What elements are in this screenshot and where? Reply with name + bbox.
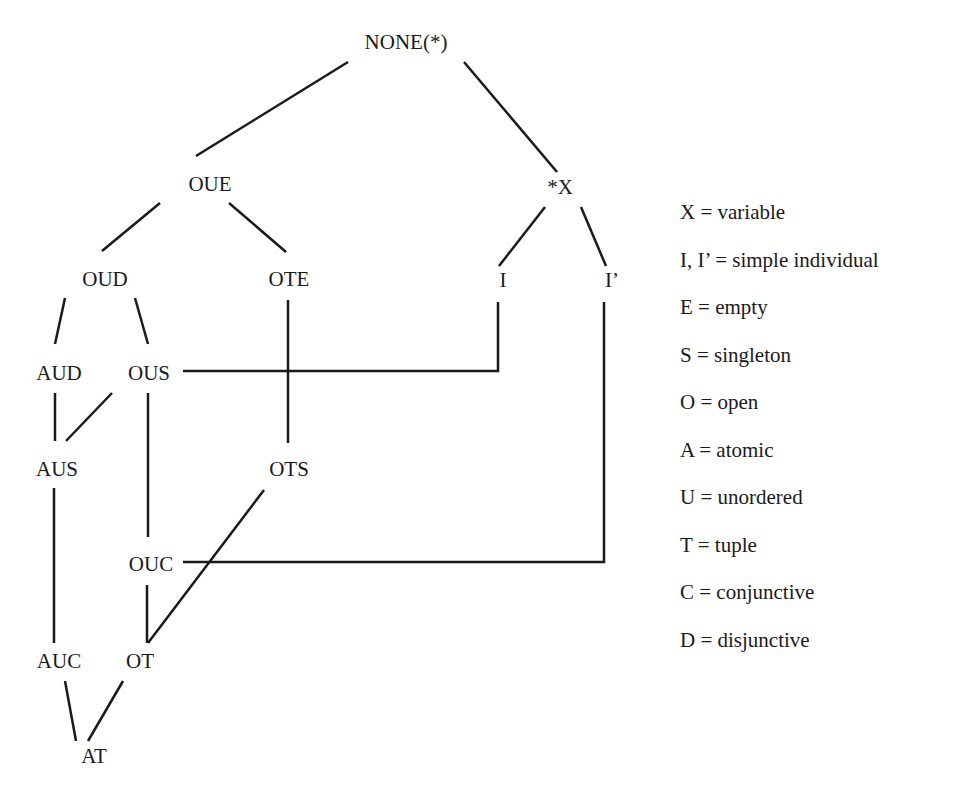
edge-x-iprime — [581, 207, 606, 266]
edge-i-ous — [183, 302, 498, 371]
node-x: *X — [547, 175, 573, 199]
edge-none-oue — [196, 62, 348, 156]
legend-item-disjunctive: D = disjunctive — [680, 628, 879, 652]
edge-x-i — [499, 207, 545, 266]
edge-iprime-ouc — [183, 302, 604, 562]
legend-item-conjunctive: C = conjunctive — [680, 580, 879, 604]
legend-item-empty: E = empty — [680, 295, 879, 319]
node-auc: AUC — [37, 649, 81, 673]
legend-item-variable: X = variable — [680, 200, 879, 224]
node-oud: OUD — [82, 267, 128, 291]
edge-auc-at — [65, 681, 76, 741]
legend-item-open: O = open — [680, 390, 879, 414]
node-aud: AUD — [36, 361, 82, 385]
legend-item-unordered: U = unordered — [680, 485, 879, 509]
legend-item-tuple: T = tuple — [680, 533, 879, 557]
node-ots: OTS — [269, 457, 309, 481]
legend-item-simple-individual: I, I’ = simple individual — [680, 248, 879, 272]
node-ouc: OUC — [129, 552, 173, 576]
edge-oue-ote — [229, 203, 286, 252]
node-none: NONE(*) — [365, 30, 448, 54]
legend: X = variable I, I’ = simple individual E… — [680, 200, 879, 675]
node-i: I — [500, 268, 507, 292]
node-ote: OTE — [269, 267, 310, 291]
node-ot: OT — [126, 649, 154, 673]
node-aus: AUS — [36, 457, 78, 481]
node-oue: OUE — [188, 172, 231, 196]
node-at: AT — [81, 744, 107, 768]
edge-oud-ous — [135, 298, 148, 344]
legend-item-atomic: A = atomic — [680, 438, 879, 462]
node-i-prime: I’ — [605, 268, 619, 292]
edge-ous-aus — [66, 393, 112, 441]
edge-none-x — [464, 62, 557, 172]
node-ous: OUS — [128, 361, 170, 385]
edge-ot-at — [88, 681, 123, 741]
legend-item-singleton: S = singleton — [680, 343, 879, 367]
edge-oud-aud — [55, 298, 65, 344]
edge-oue-oud — [102, 203, 160, 251]
